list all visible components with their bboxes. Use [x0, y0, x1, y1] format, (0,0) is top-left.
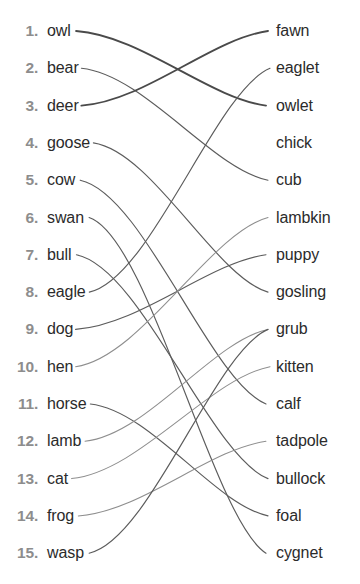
- left-item-cat[interactable]: 13.cat: [0, 467, 130, 491]
- item-number: 15.: [0, 544, 47, 562]
- right-item-cub[interactable]: cub: [276, 168, 302, 192]
- left-item-lamb[interactable]: 12.lamb: [0, 429, 130, 453]
- right-item-kitten[interactable]: kitten: [276, 355, 314, 379]
- right-item-foal[interactable]: foal: [276, 504, 301, 528]
- young-animal-word: lambkin: [276, 209, 330, 227]
- left-item-hen[interactable]: 10.hen: [0, 355, 130, 379]
- item-number: 12.: [0, 432, 47, 450]
- young-animal-word: calf: [276, 395, 301, 413]
- animal-word: deer: [47, 97, 79, 115]
- item-number: 8.: [0, 283, 47, 301]
- animal-word: goose: [47, 134, 90, 152]
- young-animal-word: puppy: [276, 246, 319, 264]
- left-item-owl[interactable]: 1.owl: [0, 19, 130, 43]
- right-item-puppy[interactable]: puppy: [276, 243, 319, 267]
- animals-column: 1.owl2.bear3.deer4.goose5.cow6.swan7.bul…: [0, 0, 130, 584]
- young-animal-word: chick: [276, 134, 312, 152]
- left-item-frog[interactable]: 14.frog: [0, 504, 130, 528]
- young-animal-word: kitten: [276, 358, 314, 376]
- young-animal-word: cub: [276, 171, 302, 189]
- young-animal-word: eaglet: [276, 59, 319, 77]
- item-number: 5.: [0, 171, 47, 189]
- left-item-cow[interactable]: 5.cow: [0, 168, 130, 192]
- animal-word: hen: [47, 358, 73, 376]
- animal-word: wasp: [47, 544, 84, 562]
- left-item-bull[interactable]: 7.bull: [0, 243, 130, 267]
- animal-word: bear: [47, 59, 79, 77]
- young-animal-word: tadpole: [276, 432, 328, 450]
- item-number: 3.: [0, 97, 47, 115]
- right-item-calf[interactable]: calf: [276, 392, 301, 416]
- animal-word: dog: [47, 320, 73, 338]
- left-item-deer[interactable]: 3.deer: [0, 94, 130, 118]
- animal-word: bull: [47, 246, 72, 264]
- right-item-chick[interactable]: chick: [276, 131, 312, 155]
- animal-word: frog: [47, 507, 74, 525]
- young-animals-column: fawneagletowletchickcublambkinpuppygosli…: [276, 0, 360, 584]
- animal-word: lamb: [47, 432, 81, 450]
- item-number: 6.: [0, 209, 47, 227]
- right-item-gosling[interactable]: gosling: [276, 280, 326, 304]
- right-item-bullock[interactable]: bullock: [276, 467, 325, 491]
- item-number: 7.: [0, 246, 47, 264]
- young-animal-word: cygnet: [276, 544, 323, 562]
- right-item-cygnet[interactable]: cygnet: [276, 541, 323, 565]
- young-animal-word: foal: [276, 507, 301, 525]
- item-number: 14.: [0, 507, 47, 525]
- animal-word: horse: [47, 395, 87, 413]
- right-item-grub[interactable]: grub: [276, 317, 308, 341]
- left-item-horse[interactable]: 11.horse: [0, 392, 130, 416]
- item-number: 4.: [0, 134, 47, 152]
- left-item-eagle[interactable]: 8.eagle: [0, 280, 130, 304]
- left-item-wasp[interactable]: 15.wasp: [0, 541, 130, 565]
- animal-word: cat: [47, 470, 68, 488]
- animal-word: eagle: [47, 283, 86, 301]
- matching-exercise-worksheet: 1.owl2.bear3.deer4.goose5.cow6.swan7.bul…: [0, 0, 360, 584]
- left-item-swan[interactable]: 6.swan: [0, 206, 130, 230]
- animal-word: cow: [47, 171, 75, 189]
- item-number: 9.: [0, 320, 47, 338]
- young-animal-word: gosling: [276, 283, 326, 301]
- right-item-tadpole[interactable]: tadpole: [276, 429, 328, 453]
- left-item-bear[interactable]: 2.bear: [0, 56, 130, 80]
- young-animal-word: grub: [276, 320, 308, 338]
- item-number: 13.: [0, 470, 47, 488]
- young-animal-word: owlet: [276, 97, 313, 115]
- animal-word: swan: [47, 209, 84, 227]
- item-number: 1.: [0, 22, 47, 40]
- item-number: 10.: [0, 358, 47, 376]
- right-item-fawn[interactable]: fawn: [276, 19, 309, 43]
- item-number: 11.: [0, 395, 47, 413]
- animal-word: owl: [47, 22, 71, 40]
- left-item-goose[interactable]: 4.goose: [0, 131, 130, 155]
- right-item-eaglet[interactable]: eaglet: [276, 56, 319, 80]
- item-number: 2.: [0, 59, 47, 77]
- right-item-owlet[interactable]: owlet: [276, 94, 313, 118]
- young-animal-word: fawn: [276, 22, 309, 40]
- young-animal-word: bullock: [276, 470, 325, 488]
- left-item-dog[interactable]: 9.dog: [0, 317, 130, 341]
- right-item-lambkin[interactable]: lambkin: [276, 206, 330, 230]
